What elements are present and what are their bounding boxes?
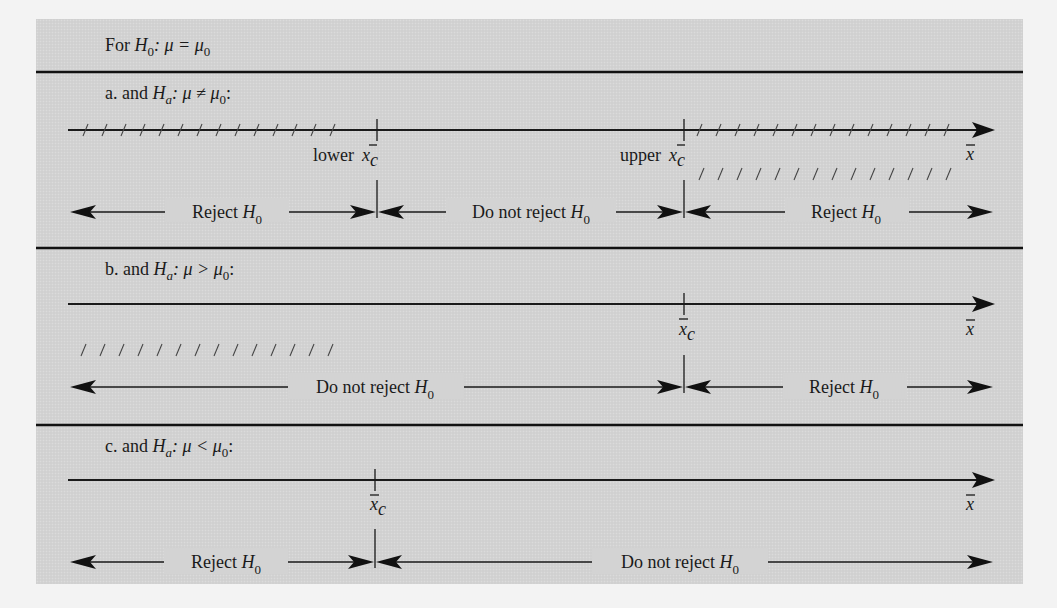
header-relation: : μ = μ bbox=[154, 35, 204, 55]
header-mu-sub: 0 bbox=[204, 44, 211, 59]
axis-variable-label: x bbox=[965, 319, 974, 339]
axis-variable-label: x bbox=[965, 494, 974, 514]
section-a-title: a. and Ha: μ ≠ μ0: bbox=[105, 83, 231, 107]
axis-variable-label: x bbox=[965, 144, 974, 164]
region-label-reject-upper: Reject H0 bbox=[811, 202, 881, 227]
header-prefix: For bbox=[105, 35, 135, 55]
section-b-title: b. and Ha: μ > μ0: bbox=[105, 259, 234, 283]
critical-value-label: xc bbox=[369, 494, 386, 519]
null-hypothesis-header: For H0: μ = μ0 bbox=[105, 35, 210, 59]
region-label-reject-lower: Reject H0 bbox=[192, 202, 262, 227]
header-H: H bbox=[134, 35, 149, 55]
critical-value-label: xc bbox=[678, 319, 695, 344]
hypothesis-test-rejection-regions-diagram: For H0: μ = μ0 a. and Ha: μ ≠ μ0: bbox=[0, 0, 1057, 608]
lower-critical-label: lowerxc bbox=[313, 145, 378, 170]
section-a-two-tailed: a. and Ha: μ ≠ μ0: lowerxc upper bbox=[68, 83, 995, 227]
section-b-rejection-hatching bbox=[699, 168, 951, 180]
region-label-do-not-reject: Do not reject H0 bbox=[472, 202, 590, 227]
upper-critical-label: upperxc bbox=[620, 145, 685, 170]
section-c-title: c. and Ha: μ < μ0: bbox=[105, 436, 233, 460]
section-c-rejection-hatching bbox=[81, 344, 333, 356]
svg-text:For H0: μ = μ0: For H0: μ = μ0 bbox=[105, 35, 210, 59]
